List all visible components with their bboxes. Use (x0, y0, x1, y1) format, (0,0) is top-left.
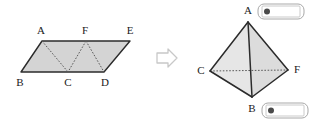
face-a-c-b (210, 22, 252, 97)
vertex-label-b-parallelogram: B (16, 76, 23, 88)
vertex-label-a-tetrahedron: A (244, 4, 252, 16)
parallelogram-body (21, 41, 130, 72)
geometry-diagram: A F E B C D A C F B (0, 0, 315, 124)
vertex-label-b-tetrahedron: B (248, 102, 255, 114)
vertex-label-e-parallelogram: E (127, 24, 134, 36)
geometry-figure-canvas: A F E B C D A C F B (0, 0, 315, 124)
vertex-label-d-parallelogram: D (101, 76, 109, 88)
right-arrow-glyph (157, 49, 177, 67)
vertex-label-f-parallelogram: F (82, 24, 88, 36)
vertex-label-f-tetrahedron: F (294, 63, 300, 75)
vertex-label-c-parallelogram: C (64, 76, 71, 88)
badge-near-b[interactable] (262, 103, 308, 118)
badge-near-a-filled-circle-icon (264, 9, 270, 15)
vertex-label-a-parallelogram: A (37, 24, 45, 36)
right-arrow-icon (157, 49, 177, 67)
badge-near-b-filled-circle-icon (268, 108, 274, 114)
tetrahedron-figure: A C F B (197, 4, 308, 118)
badge-near-a[interactable] (258, 4, 304, 19)
vertex-label-c-tetrahedron: C (197, 64, 204, 76)
parallelogram-figure: A F E B C D (16, 24, 133, 88)
